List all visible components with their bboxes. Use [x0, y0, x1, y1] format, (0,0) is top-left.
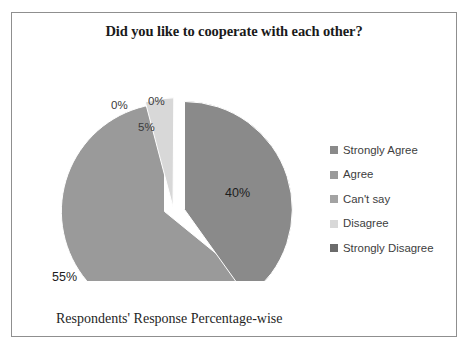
pie-label-cant-say: 0%	[111, 99, 128, 111]
pie-label-agree: 55%	[52, 270, 77, 284]
legend-label: Strongly Disagree	[343, 243, 434, 254]
legend-swatch-icon	[330, 195, 338, 203]
chart-legend: Strongly Agree Agree Can't say Disagree …	[330, 138, 465, 261]
legend-item-strongly-agree[interactable]: Strongly Agree	[330, 138, 465, 163]
legend-item-agree[interactable]: Agree	[330, 163, 465, 188]
legend-swatch-icon	[330, 171, 338, 179]
legend-item-disagree[interactable]: Disagree	[330, 212, 465, 237]
legend-item-strongly-disagree[interactable]: Strongly Disagree	[330, 236, 465, 261]
pie-chart: 40% 55% 5% 0% 0%	[12, 41, 312, 281]
legend-item-cant-say[interactable]: Can't say	[330, 187, 465, 212]
legend-swatch-icon	[330, 146, 338, 154]
chart-caption: Respondents' Response Percentage-wise	[56, 311, 282, 327]
legend-label: Disagree	[343, 218, 389, 229]
pie-label-disagree: 5%	[138, 121, 155, 133]
pie-svg	[12, 41, 312, 281]
legend-swatch-icon	[330, 244, 338, 252]
pie-label-strongly-agree: 40%	[225, 186, 250, 200]
legend-label: Agree	[343, 169, 373, 180]
legend-label: Strongly Agree	[343, 145, 418, 156]
chart-frame: Did you like to cooperate with each othe…	[11, 12, 457, 337]
legend-swatch-icon	[330, 220, 338, 228]
pie-label-strongly-disagree: 0%	[148, 95, 165, 107]
chart-title: Did you like to cooperate with each othe…	[12, 23, 456, 40]
legend-label: Can't say	[343, 194, 390, 205]
